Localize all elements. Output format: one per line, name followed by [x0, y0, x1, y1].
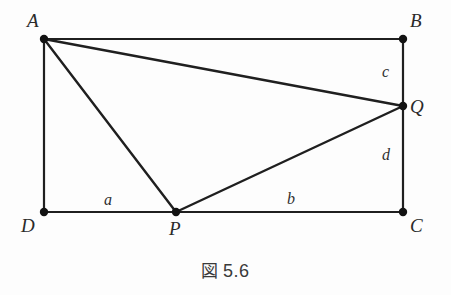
vertex-label-C: C — [410, 216, 423, 235]
figure-container: A B Q C P D a b c d 図5.6 — [0, 0, 451, 295]
figure-caption-symbol: 図 — [201, 261, 219, 281]
vertex-dot-A — [40, 35, 48, 43]
vertex-label-B: B — [410, 11, 422, 30]
diagram-edges — [44, 39, 403, 212]
segment-label-c: c — [382, 64, 389, 80]
vertex-dot-Q — [399, 102, 407, 110]
segment-label-a: a — [104, 192, 112, 208]
vertex-dot-D — [40, 208, 48, 216]
vertex-dot-C — [399, 208, 407, 216]
segment-label-d: d — [382, 147, 390, 163]
edge-AQ — [44, 39, 403, 106]
vertex-label-Q: Q — [410, 97, 424, 116]
vertex-dot-P — [172, 208, 180, 216]
segment-label-b: b — [287, 191, 295, 207]
vertex-label-P: P — [169, 219, 181, 238]
vertex-label-A: A — [27, 11, 39, 30]
vertex-dot-B — [399, 35, 407, 43]
figure-caption-number: 5.6 — [223, 261, 250, 281]
edge-AP — [44, 39, 176, 212]
figure-caption: 図5.6 — [0, 257, 451, 282]
vertex-label-D: D — [21, 216, 35, 235]
